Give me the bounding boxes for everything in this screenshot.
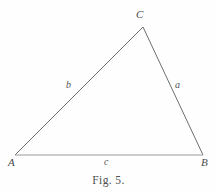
triangle-side-b-line xyxy=(15,27,143,155)
side-label-b: b xyxy=(66,80,71,90)
side-label-a: a xyxy=(175,80,180,90)
triangle-diagram xyxy=(0,0,217,192)
vertex-label-b: B xyxy=(201,157,208,168)
vertex-label-a: A xyxy=(8,157,15,168)
triangle-side-a-line xyxy=(143,27,203,155)
side-label-c: c xyxy=(104,157,108,167)
figure-container: C A B b a c Fig. 5. xyxy=(0,0,217,192)
figure-caption: Fig. 5. xyxy=(0,174,217,186)
vertex-label-c: C xyxy=(136,9,143,20)
